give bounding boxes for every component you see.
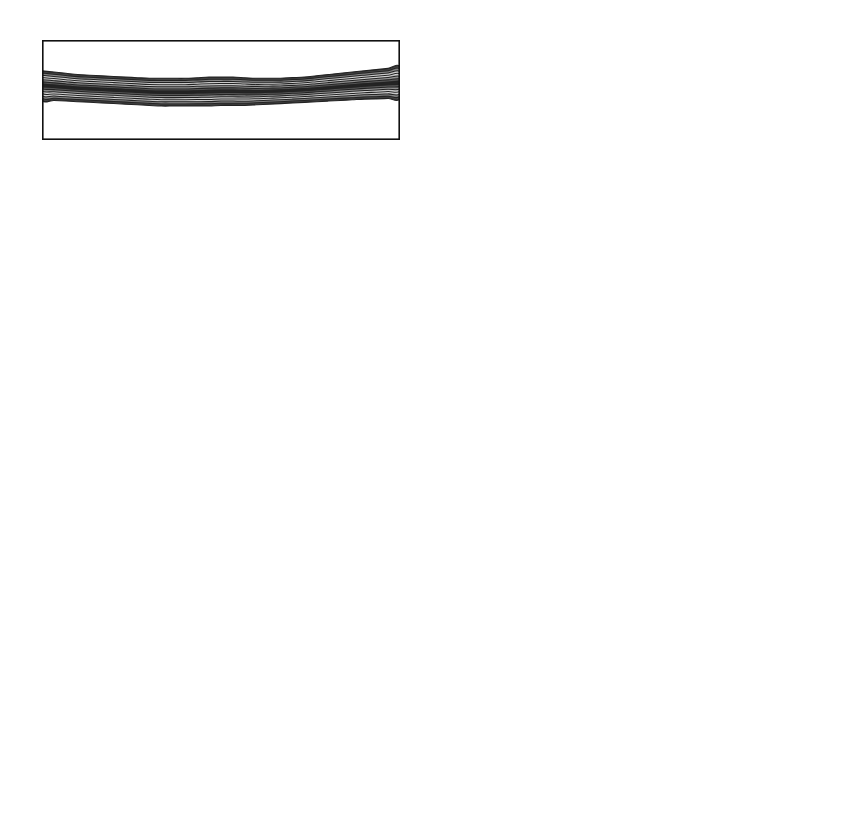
scientific-figure	[0, 0, 845, 835]
contour-plot-0	[42, 40, 400, 140]
contour-panel-0	[42, 40, 400, 140]
